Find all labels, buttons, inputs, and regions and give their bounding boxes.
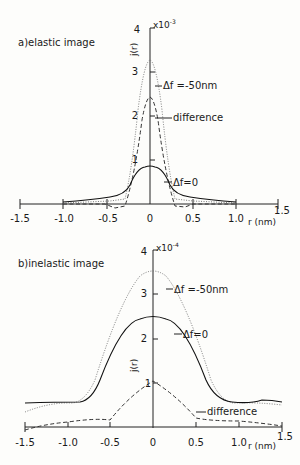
panel-b-annotation-df0: Δf=0 [183,329,208,340]
svg-text:3: 3 [132,66,138,77]
svg-text:0.5: 0.5 [185,213,201,224]
panel-a-annotation-df50: Δf =-50nm [163,80,217,91]
svg-text:-0.5: -0.5 [100,437,120,448]
svg-text:1.0: 1.0 [231,437,247,448]
svg-text:1.5: 1.5 [277,431,293,442]
svg-text:2: 2 [141,333,147,344]
svg-text:0: 0 [150,437,156,448]
svg-text:-1.5: -1.5 [15,437,35,448]
figure-svg: a)elastic image -1.5 -1.0 -0.5 0 0.5 1.0 [0,0,300,465]
panel-a-title: a)elastic image [18,37,95,48]
svg-text:1.5: 1.5 [274,205,290,216]
svg-text:1: 1 [145,378,151,389]
panel-a-annotation-difference: difference [173,112,223,123]
svg-text:4: 4 [134,24,140,35]
svg-text:-1.0: -1.0 [54,213,74,224]
svg-text:-1.5: -1.5 [10,213,30,224]
panel-b-annotation-difference: difference [207,406,257,417]
svg-text:4: 4 [141,246,147,257]
panel-b-scale: x10-4 [156,241,179,253]
svg-text:0: 0 [147,213,153,224]
panel-a-xlabel: r (nm) [248,217,276,227]
figure: a)elastic image -1.5 -1.0 -0.5 0 0.5 1.0 [0,0,300,465]
panel-b-title: b)inelastic image [18,258,104,269]
panel-b-ylabel: j(r) [129,359,139,373]
svg-text:-1.0: -1.0 [58,437,78,448]
svg-text:1.0: 1.0 [228,213,244,224]
svg-text:3: 3 [141,288,147,299]
svg-text:-0.5: -0.5 [98,213,118,224]
panel-a-scale: x10-3 [153,18,176,30]
svg-text:0.5: 0.5 [188,437,204,448]
panel-a-annotation-df0: Δf=0 [173,177,198,188]
panel-b: b)inelastic image -1.5 -1.0 -0.5 0 0.5 1… [15,241,293,451]
panel-a-ylabel: j(r) [129,43,139,57]
panel-a: a)elastic image -1.5 -1.0 -0.5 0 0.5 1.0 [10,18,290,227]
panel-b-annotation-df50: Δf =-50nm [174,284,228,295]
panel-b-xlabel: r (nm) [248,441,276,451]
